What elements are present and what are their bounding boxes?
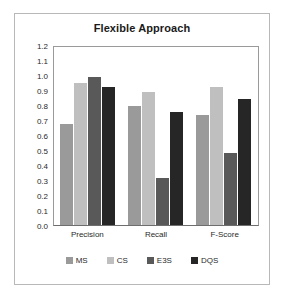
x-axis-tick-labels: PrecisionRecallF-Score	[53, 230, 259, 244]
y-axis-tick-label: 1.1	[37, 57, 48, 66]
legend-item-e3s: E3S	[147, 256, 172, 265]
y-axis-tick-label: 1.0	[37, 72, 48, 81]
x-axis-tick-label: F-Score	[210, 230, 238, 239]
legend-item-dqs: DQS	[191, 256, 218, 265]
bar-dqs-precision	[102, 87, 115, 225]
chart-legend: MSCSE3SDQS	[15, 256, 269, 265]
y-axis-tick-label: 0.9	[37, 87, 48, 96]
legend-swatch-icon	[107, 257, 114, 264]
y-axis-tick-label: 1.2	[37, 42, 48, 51]
bar-ms-recall	[128, 106, 141, 225]
legend-item-ms: MS	[66, 256, 88, 265]
bar-e3s-precision	[88, 77, 101, 225]
bar-ms-precision	[60, 124, 73, 225]
y-axis-tick-label: 0.7	[37, 117, 48, 126]
legend-item-cs: CS	[107, 256, 128, 265]
bar-ms-f-score	[196, 115, 209, 225]
y-axis-tick-label: 0.5	[37, 147, 48, 156]
bar-group	[54, 47, 122, 225]
y-axis-tick-label: 0.2	[37, 192, 48, 201]
y-axis-tick-label: 0.4	[37, 162, 48, 171]
legend-swatch-icon	[147, 257, 154, 264]
legend-label: MS	[76, 256, 88, 265]
y-axis-tick-label: 0.6	[37, 132, 48, 141]
bar-dqs-f-score	[238, 99, 251, 225]
legend-swatch-icon	[191, 257, 198, 264]
y-axis-tick-label: 0.1	[37, 207, 48, 216]
bar-e3s-f-score	[224, 153, 237, 225]
legend-swatch-icon	[66, 257, 73, 264]
chart-figure: Flexible Approach 1.21.11.00.90.80.70.60…	[14, 13, 270, 285]
y-axis-tick-label: 0.3	[37, 177, 48, 186]
legend-label: DQS	[201, 256, 218, 265]
bar-cs-f-score	[210, 87, 223, 225]
chart-title: Flexible Approach	[15, 22, 269, 34]
y-axis-tick-labels: 1.21.11.00.90.80.70.60.50.40.30.20.10.0	[15, 46, 51, 226]
plot-area	[53, 46, 259, 226]
bar-cs-precision	[74, 83, 87, 225]
bar-e3s-recall	[156, 178, 169, 225]
bar-dqs-recall	[170, 112, 183, 225]
y-axis-tick-label: 0.0	[37, 222, 48, 231]
y-axis-tick-label: 0.8	[37, 102, 48, 111]
bar-group	[122, 47, 190, 225]
x-axis-tick-label: Precision	[71, 230, 104, 239]
legend-label: CS	[117, 256, 128, 265]
bars-layer	[54, 47, 258, 225]
x-axis-tick-label: Recall	[145, 230, 167, 239]
legend-label: E3S	[157, 256, 172, 265]
bar-group	[190, 47, 258, 225]
bar-cs-recall	[142, 92, 155, 226]
